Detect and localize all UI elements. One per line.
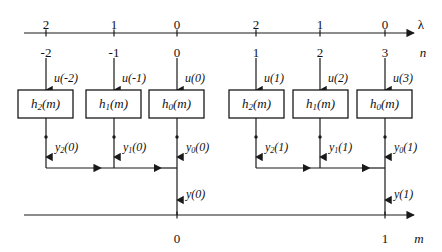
summation-bus-group bbox=[46, 168, 385, 215]
filter-block-label-1: h1(m) bbox=[99, 96, 128, 112]
input-label-2: u(0) bbox=[185, 72, 205, 84]
branch-output-label-2: y0(0) bbox=[186, 141, 209, 155]
filter-block-label-5: h0(m) bbox=[370, 96, 399, 112]
filter-blocks-group bbox=[18, 90, 412, 118]
branch-output-label-0: y2(0) bbox=[55, 141, 78, 155]
diagram-svg bbox=[0, 0, 442, 252]
m-axis-name: m bbox=[414, 232, 423, 245]
filter-block-label-3: h2(m) bbox=[242, 96, 271, 112]
branch-output-label-1: y1(0) bbox=[123, 141, 146, 155]
branch-output-label-5: y0(1) bbox=[394, 141, 417, 155]
lambda-tick-label-2: 0 bbox=[174, 18, 181, 31]
input-label-4: u(2) bbox=[328, 72, 348, 84]
lambda-tick-label-1: 1 bbox=[111, 18, 118, 31]
filter-block-label-4: h1(m) bbox=[306, 96, 335, 112]
input-label-3: u(1) bbox=[264, 72, 284, 84]
top-axis-group bbox=[24, 30, 414, 37]
m-tick-label-0: 0 bbox=[174, 232, 181, 245]
n-tick-label-5: 3 bbox=[382, 46, 389, 59]
lambda-tick-label-3: 2 bbox=[253, 18, 260, 31]
bottom-axis-group bbox=[24, 212, 414, 219]
n-tick-label-1: -1 bbox=[109, 46, 120, 59]
sum-output-label-1: y(1) bbox=[394, 188, 413, 200]
n-tick-label-0: -2 bbox=[41, 46, 52, 59]
lambda-tick-label-5: 0 bbox=[382, 18, 389, 31]
input-label-0: u(-2) bbox=[54, 72, 78, 84]
figure-canvas: 2-21-100211203λn01mu(-2)u(-1)u(0)u(1)u(2… bbox=[0, 0, 442, 252]
filter-block-label-2: h0(m) bbox=[162, 96, 191, 112]
input-label-1: u(-1) bbox=[122, 72, 146, 84]
branch-output-label-4: y1(1) bbox=[329, 141, 352, 155]
n-axis-name: n bbox=[420, 46, 427, 59]
lambda-tick-label-4: 1 bbox=[317, 18, 324, 31]
n-tick-label-3: 1 bbox=[253, 46, 260, 59]
lambda-tick-label-0: 2 bbox=[43, 18, 50, 31]
n-tick-label-2: 0 bbox=[174, 46, 181, 59]
input-label-5: u(3) bbox=[393, 72, 413, 84]
sum-output-label-0: y(0) bbox=[186, 188, 205, 200]
lambda-axis-name: λ bbox=[418, 18, 424, 31]
m-tick-label-1: 1 bbox=[382, 232, 389, 245]
filter-block-label-0: h2(m) bbox=[31, 96, 60, 112]
n-tick-label-4: 2 bbox=[317, 46, 324, 59]
branch-output-label-3: y2(1) bbox=[265, 141, 288, 155]
